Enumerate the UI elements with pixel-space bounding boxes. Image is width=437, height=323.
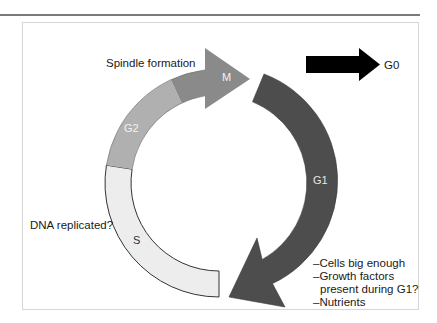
checkpoint-item: –Cells big enough [313, 257, 418, 270]
checkpoint-item: –Nutrients [313, 296, 418, 309]
g0-label: G0 [384, 59, 399, 72]
g0-exit-arrow [306, 48, 380, 81]
phase-s-label: S [133, 234, 140, 246]
checkpoint-item: present during G1? [313, 283, 418, 296]
phase-g2-segment [106, 80, 181, 170]
spindle-formation-label: Spindle formation [106, 57, 196, 70]
phase-s-segment [105, 165, 219, 297]
phase-m-label: M [222, 71, 231, 83]
g1-checkpoint-list: –Cells big enough –Growth factors presen… [313, 257, 418, 309]
phase-g1-label: G1 [313, 174, 328, 186]
phase-g2-label: G2 [124, 122, 139, 134]
checkpoint-item: –Growth factors [313, 270, 418, 283]
dna-replicated-label: DNA replicated? [30, 219, 113, 232]
